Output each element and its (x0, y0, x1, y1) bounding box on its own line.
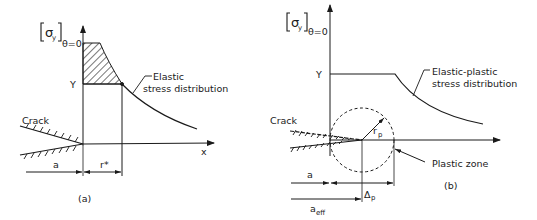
panel-a-caption: (a) (78, 193, 91, 204)
panel-a-yield-label: Y (69, 79, 76, 90)
panel-a-labels: σ y θ=0 Y x Crack Elastic stress distrib… (22, 25, 228, 204)
panel-b-radius-subscript: p (378, 131, 383, 139)
panel-a (20, 23, 214, 176)
panel-b-caption: (b) (444, 180, 457, 191)
panel-b-sigma-subscript: y (298, 24, 302, 32)
panel-b-yield-label: Y (315, 69, 322, 80)
panel-a-crack-label: Crack (22, 115, 50, 126)
panel-a-dim-r-label: r* (100, 159, 109, 170)
crack-tip-stress-diagram: σ y θ=0 Y x Crack Elastic stress distrib… (0, 0, 537, 220)
panel-a-curve-label-1: Elastic (153, 71, 184, 82)
panel-b-labels: σ y θ=0 Y Crack Elastic-plastic stress d… (270, 15, 517, 217)
panel-b-theta-condition: θ=0 (308, 26, 328, 37)
x-axis (83, 143, 214, 144)
panel-a-theta-condition: θ=0 (62, 38, 82, 49)
panel-b-dim-aeff-label: a (310, 203, 316, 214)
diagram-canvas: σ y θ=0 Y x Crack Elastic stress distrib… (0, 0, 537, 220)
curve-label-leader (413, 70, 430, 96)
crack-hatching (291, 130, 351, 152)
crack-upper-face (20, 126, 83, 144)
crack-lower-face (290, 140, 362, 148)
plastic-zone-pointer (395, 149, 425, 162)
panel-b-dim-aeff-subscript: eff (316, 209, 325, 217)
hatched-excess-stress-region (83, 43, 122, 84)
panel-b-dim-delta-subscript: p (371, 194, 376, 202)
panel-a-x-label: x (201, 146, 207, 157)
panel-b-curve-label-2: stress distribution (432, 78, 517, 89)
panel-a-sigma-subscript: y (52, 34, 56, 42)
panel-b-curve-label-1: Elastic-plastic (432, 66, 497, 77)
panel-b-crack-label: Crack (270, 115, 298, 126)
panel-b-dim-a-label: a (307, 169, 313, 180)
panel-b-radius-label: r (373, 125, 377, 136)
panel-b-plastic-zone-label: Plastic zone (432, 158, 489, 169)
panel-a-curve-label-2: stress distribution (143, 83, 228, 94)
panel-a-dim-a-label: a (53, 159, 59, 170)
panel-b-dim-delta-label: Δ (364, 189, 371, 200)
crack-hatching (24, 123, 78, 159)
